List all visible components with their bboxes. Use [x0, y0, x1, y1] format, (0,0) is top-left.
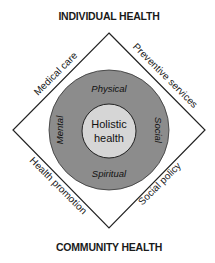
- physical-label: Physical: [91, 83, 127, 94]
- mental-label: Mental: [54, 115, 65, 144]
- health-label: health: [94, 132, 124, 144]
- inner-circle: [82, 104, 136, 158]
- individual-health-heading: INDIVIDUAL HEALTH: [58, 10, 159, 22]
- holistic-label: Holistic: [91, 118, 127, 130]
- community-health-heading: COMMUNITY HEALTH: [56, 241, 162, 253]
- social-label: Social: [153, 117, 164, 144]
- spiritual-label: Spiritual: [92, 168, 127, 179]
- holistic-health-diagram: INDIVIDUAL HEALTH COMMUNITY HEALTH Medic…: [0, 0, 215, 263]
